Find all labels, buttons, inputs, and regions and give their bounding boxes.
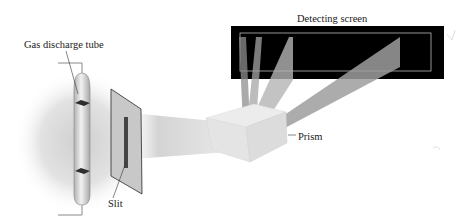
apparatus-diagram [0, 0, 458, 223]
slit-plate [111, 89, 142, 194]
detecting-screen [231, 26, 444, 79]
stray-mark-top [447, 30, 455, 40]
gas-discharge-tube-label: Gas discharge tube [24, 40, 104, 51]
prism [206, 104, 287, 162]
stray-mark-bottom [433, 147, 440, 150]
prism-label: Prism [298, 132, 323, 143]
slit-label: Slit [108, 199, 123, 210]
slit-opening [124, 117, 128, 168]
detecting-screen-label: Detecting screen [297, 14, 367, 25]
